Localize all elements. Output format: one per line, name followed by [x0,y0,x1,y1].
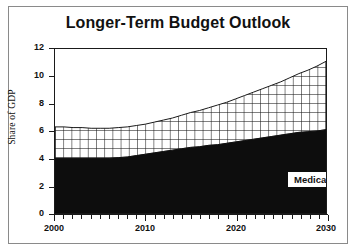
chart-screenshot: Longer-Term Budget Outlook Share of GDP … [0,0,356,252]
x-tick-mark [164,215,165,219]
x-tick-mark [218,215,219,219]
x-tick-mark [145,215,146,221]
x-tick-mark [136,215,137,219]
y-tick-label: 4 [18,154,44,163]
x-tick-mark [319,215,320,219]
x-tick-mark [273,215,274,219]
x-tick-label: 2010 [125,223,165,233]
y-tick-label: 0 [18,209,44,218]
y-tick-label: 10 [18,71,44,80]
x-tick-mark [328,215,329,221]
x-tick-mark [228,215,229,219]
x-tick-mark [91,215,92,219]
y-axis-title: Share of GDP [7,69,17,165]
x-tick-mark [72,215,73,219]
x-tick-mark [109,215,110,219]
x-tick-mark [81,215,82,219]
x-tick-mark [282,215,283,219]
x-tick-mark [118,215,119,219]
x-tick-label: 2000 [34,223,74,233]
y-tick-label: 6 [18,126,44,135]
y-tick-label: 8 [18,99,44,108]
series-label-medicare: Medicare [288,172,327,187]
x-tick-mark [255,215,256,219]
x-tick-mark [155,215,156,219]
x-tick-mark [292,215,293,219]
x-tick-mark [209,215,210,219]
plot-area: Medicare Social Security [54,48,327,214]
stacked-area-series [55,49,326,213]
x-tick-mark [310,215,311,219]
x-tick-mark [191,215,192,219]
x-tick-mark [63,215,64,219]
x-tick-mark [301,215,302,219]
y-tick-label: 2 [18,182,44,191]
x-tick-mark [264,215,265,219]
y-tick-label: 12 [18,43,44,52]
x-tick-mark [100,215,101,219]
x-tick-mark [200,215,201,219]
x-tick-mark [246,215,247,219]
x-tick-mark [127,215,128,219]
x-tick-mark [173,215,174,219]
x-tick-label: 2030 [306,223,346,233]
x-tick-label: 2020 [216,223,256,233]
x-tick-mark [182,215,183,219]
x-tick-mark [54,215,55,221]
page-title: Longer-Term Budget Outlook [0,14,356,32]
x-tick-mark [237,215,238,221]
